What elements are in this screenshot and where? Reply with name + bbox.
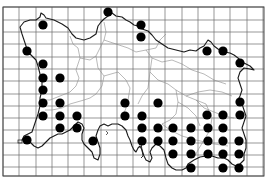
occurrence-dot bbox=[186, 163, 195, 172]
occurrence-dot bbox=[38, 98, 47, 107]
occurrence-dot bbox=[120, 98, 129, 107]
occurrence-dot bbox=[218, 110, 227, 119]
occurrence-dot bbox=[72, 111, 81, 120]
occurrence-dot bbox=[72, 123, 81, 132]
occurrence-dot bbox=[137, 123, 146, 132]
occurrence-dot bbox=[103, 7, 112, 16]
islet-west bbox=[18, 140, 22, 143]
occurrence-dot bbox=[234, 136, 243, 145]
occurrence-dot bbox=[234, 163, 243, 172]
occurrence-dot bbox=[120, 111, 129, 120]
occurrence-dot bbox=[38, 111, 47, 120]
occurrence-dot bbox=[55, 123, 64, 132]
occurrence-dot bbox=[202, 110, 211, 119]
distribution-map bbox=[0, 0, 267, 181]
occurrence-dot bbox=[202, 46, 211, 55]
occurrence-dot bbox=[203, 123, 212, 132]
occurrence-dot bbox=[186, 136, 195, 145]
occurrence-dot bbox=[218, 163, 227, 172]
occurrence-dot bbox=[218, 123, 227, 132]
occurrence-dot bbox=[168, 149, 177, 158]
occurrence-dot bbox=[55, 98, 64, 107]
occurrence-dot bbox=[55, 73, 64, 82]
occurrence-dot bbox=[218, 149, 227, 158]
map-canvas bbox=[0, 0, 267, 181]
occurrence-dot bbox=[22, 46, 31, 55]
occurrence-dot bbox=[137, 111, 146, 120]
occurrence-dot bbox=[234, 149, 243, 158]
occurrence-dot bbox=[136, 32, 145, 41]
occurrence-dot bbox=[153, 98, 162, 107]
occurrence-dot bbox=[235, 110, 244, 119]
occurrence-dot bbox=[22, 135, 31, 144]
occurrence-dot bbox=[186, 149, 195, 158]
occurrence-dot bbox=[38, 85, 47, 94]
occurrence-dot bbox=[38, 59, 47, 68]
occurrence-dot bbox=[38, 20, 47, 29]
occurrence-dot bbox=[55, 111, 64, 120]
occurrence-dot bbox=[153, 123, 162, 132]
occurrence-dot bbox=[218, 136, 227, 145]
occurrence-dot bbox=[168, 123, 177, 132]
occurrence-dot bbox=[168, 136, 177, 145]
occurrence-dot bbox=[186, 123, 195, 132]
occurrence-dot bbox=[218, 46, 227, 55]
occurrence-dot bbox=[235, 58, 244, 67]
occurrence-dot bbox=[38, 73, 47, 82]
occurrence-dot bbox=[153, 136, 162, 145]
occurrence-dot bbox=[203, 149, 212, 158]
occurrence-dot bbox=[235, 97, 244, 106]
occurrence-dot bbox=[88, 136, 97, 145]
occurrence-dot bbox=[137, 136, 146, 145]
occurrence-dot bbox=[136, 20, 145, 29]
islet-south bbox=[106, 131, 108, 135]
occurrence-dot bbox=[203, 136, 212, 145]
